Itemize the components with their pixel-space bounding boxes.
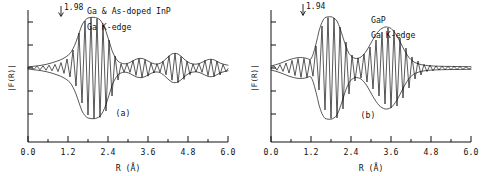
panel-a-letter: (a) [116, 108, 131, 118]
panel-b-edge-label: Ga K-edge [371, 30, 415, 40]
panel-b-xticklabel-5: 6.0 [464, 147, 479, 157]
panel-b-xticklabel-4: 4.8 [424, 147, 439, 157]
panel-b-xaxis-label: R (Å) [359, 162, 384, 173]
panel-a-xticklabel-2: 2.4 [101, 147, 116, 157]
panel-b-x-ticks [271, 136, 471, 142]
panel-b-yaxis-label: |F(R)| [250, 64, 259, 91]
exafs-figure: 0.0 1.2 2.4 3.6 4.8 6.0 R (Å) |F(R)| [0, 0, 486, 176]
panel-b-letter: (b) [361, 110, 376, 120]
panel-a-xaxis-label: R (Å) [116, 162, 141, 173]
panel-a-xticklabel-0: 0.0 [21, 147, 36, 157]
panel-b-plot: 0.0 1.2 2.4 3.6 4.8 6.0 R (Å) |F(R)| 1.9… [243, 0, 486, 176]
panel-a-xticklabel-1: 1.2 [61, 147, 76, 157]
panel-b-peak-marker [301, 4, 306, 16]
panel-a: 0.0 1.2 2.4 3.6 4.8 6.0 R (Å) |F(R)| [0, 0, 243, 176]
panel-a-xticklabel-4: 4.8 [181, 147, 196, 157]
panel-a-x-ticks [28, 136, 228, 142]
panel-b-xticklabel-0: 0.0 [264, 147, 279, 157]
panel-a-xticklabel-3: 3.6 [141, 147, 156, 157]
panel-a-sample-label: Ga & As-doped InP [87, 6, 171, 16]
panel-b-xticklabel-3: 3.6 [384, 147, 399, 157]
panel-b-xticklabel-1: 1.2 [304, 147, 319, 157]
panel-b: 0.0 1.2 2.4 3.6 4.8 6.0 R (Å) |F(R)| 1.9… [243, 0, 486, 176]
panel-a-peak-label: 1.98 [64, 3, 83, 12]
panel-a-plot: 0.0 1.2 2.4 3.6 4.8 6.0 R (Å) |F(R)| [0, 0, 243, 176]
panel-a-edge-label: Ga K-edge [87, 22, 131, 32]
panel-a-xticklabel-5: 6.0 [221, 147, 236, 157]
panel-a-real-part [28, 18, 228, 119]
panel-a-yaxis-label: |F(R)| [7, 64, 16, 91]
panel-b-xticklabel-2: 2.4 [344, 147, 359, 157]
panel-b-sample-label: GaP [371, 15, 386, 25]
panel-b-peak-label: 1.94 [306, 2, 325, 11]
panel-a-peak-marker [59, 6, 64, 17]
